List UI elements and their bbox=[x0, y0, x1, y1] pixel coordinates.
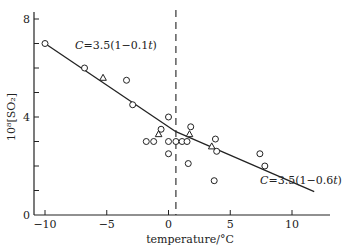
circle-marker bbox=[124, 77, 130, 83]
data-markers bbox=[42, 41, 268, 184]
y-tick-label: 4 bbox=[23, 111, 30, 124]
triangle-marker bbox=[100, 74, 107, 80]
equation-low-temp: C=3.5(1−0.1t) bbox=[75, 39, 157, 52]
circle-marker bbox=[166, 139, 172, 145]
circle-marker bbox=[130, 102, 136, 108]
circle-marker bbox=[211, 178, 217, 184]
y-tick-label: 8 bbox=[23, 13, 30, 26]
circle-marker bbox=[185, 161, 191, 167]
triangle-marker bbox=[186, 131, 193, 137]
chart: 048−10−50510 C=3.5(1−0.1t) C=3.5(1−0.6t)… bbox=[0, 0, 355, 250]
x-tick-label: 10 bbox=[285, 218, 299, 231]
x-tick-label: −10 bbox=[33, 218, 56, 231]
circle-marker bbox=[262, 163, 268, 169]
circle-marker bbox=[257, 151, 263, 157]
x-tick-label: 5 bbox=[227, 218, 234, 231]
circle-marker bbox=[166, 151, 172, 157]
circle-marker bbox=[82, 65, 88, 71]
circle-marker bbox=[151, 139, 157, 145]
circle-marker bbox=[143, 139, 149, 145]
x-tick-label: 0 bbox=[165, 218, 172, 231]
circle-marker bbox=[188, 124, 194, 130]
circle-marker bbox=[184, 139, 190, 145]
x-tick-label: −5 bbox=[99, 218, 115, 231]
circle-marker bbox=[173, 139, 179, 145]
fit-line-fit-low-temp bbox=[45, 44, 176, 132]
equation-high-temp: C=3.5(1−0.6t) bbox=[260, 174, 342, 187]
y-axis-title: 10⁸[SO₂] bbox=[5, 93, 18, 141]
x-axis-title: temperature/°C bbox=[146, 233, 234, 246]
circle-marker bbox=[166, 114, 172, 120]
circle-marker bbox=[42, 41, 48, 47]
circle-marker bbox=[212, 136, 218, 142]
y-tick-label: 0 bbox=[23, 209, 30, 222]
